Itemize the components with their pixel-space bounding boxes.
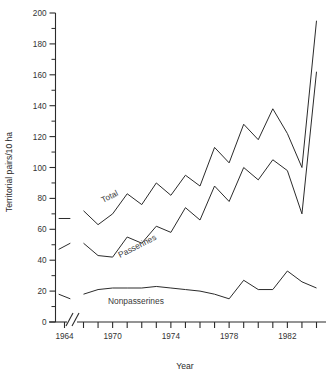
series-line-passerines-prebreak — [59, 243, 71, 249]
y-tick-label: 60 — [37, 225, 47, 234]
series-label-passerines: Passerines — [116, 232, 157, 260]
series-line-nonpasserines — [84, 271, 317, 299]
series-line-passerines — [84, 72, 317, 257]
x-axis-ticks: 19641970197419781982 — [55, 322, 316, 341]
y-tick-label: 80 — [37, 194, 47, 203]
y-tick-label: 20 — [37, 287, 47, 296]
y-tick-label: 160 — [33, 71, 47, 80]
y-tick-label: 100 — [33, 164, 47, 173]
y-tick-label: 120 — [33, 133, 47, 142]
x-tick-label: 1982 — [278, 332, 297, 341]
y-axis-title: Territorial pairs/10 ha — [4, 132, 14, 212]
x-tick-label: 1970 — [104, 332, 123, 341]
series-label-total: Total — [99, 188, 119, 205]
x-tick-label: 1978 — [220, 332, 239, 341]
series-line-total — [84, 21, 317, 225]
y-axis-ticks: 020406080100120140160180200 — [33, 9, 56, 327]
x-tick-label: 1964 — [55, 332, 74, 341]
y-tick-label: 40 — [37, 256, 47, 265]
axis-break-icon — [66, 313, 79, 326]
series-label-nonpasserines: Nonpasserines — [108, 296, 164, 306]
x-tick-label: 1974 — [162, 332, 181, 341]
x-axis-title: Year — [176, 361, 194, 371]
y-tick-label: 0 — [42, 318, 47, 327]
y-tick-label: 200 — [33, 9, 47, 18]
y-tick-label: 180 — [33, 40, 47, 49]
y-tick-label: 140 — [33, 102, 47, 111]
line-chart-svg: Territorial pairs/10 ha Year 02040608010… — [0, 0, 331, 377]
chart-container: Territorial pairs/10 ha Year 02040608010… — [0, 0, 331, 377]
series-line-nonpasserines-prebreak — [59, 294, 71, 299]
series-layer — [59, 21, 317, 299]
